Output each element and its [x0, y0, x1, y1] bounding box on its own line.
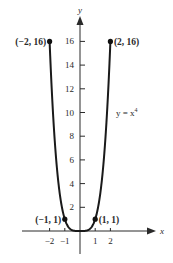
y-axis-arrow-icon: [77, 16, 84, 25]
y-tick-label: 2: [70, 202, 75, 212]
y-ticks: 246810121416: [65, 36, 85, 212]
point-label: (2, 16): [114, 37, 139, 48]
function-label: y = x4: [116, 107, 138, 118]
y-tick-label: 6: [70, 155, 75, 165]
function-label-text: y = x: [116, 108, 135, 118]
y-tick-label: 10: [65, 108, 75, 118]
point-marker: [47, 39, 52, 44]
y-tick-label: 16: [65, 36, 75, 46]
x-tick-label: −1: [60, 236, 70, 246]
point-marker: [62, 217, 67, 222]
y-tick-label: 12: [65, 84, 74, 94]
function-label-exponent: 4: [135, 107, 138, 113]
x-axis-label: x: [159, 226, 164, 236]
y-axis-label: y: [77, 5, 82, 15]
point-label: (−1, 1): [35, 215, 61, 226]
point-label: (1, 1): [99, 215, 120, 226]
point-label: (−2, 16): [15, 37, 46, 48]
point-marker: [93, 217, 98, 222]
x-tick-label: −2: [45, 236, 55, 246]
y-tick-label: 14: [65, 60, 75, 70]
labeled-points: (−2, 16)(2, 16)(−1, 1)(1, 1): [15, 37, 139, 226]
x-tick-label: 2: [108, 236, 113, 246]
x-axis-arrow-icon: [147, 228, 156, 235]
y-tick-label: 4: [70, 179, 75, 189]
point-marker: [108, 39, 113, 44]
y-tick-label: 8: [70, 131, 75, 141]
x-tick-label: 1: [93, 236, 98, 246]
function-graph: x y −2−112 246810121416 (−2, 16)(2, 16)(…: [0, 0, 173, 263]
